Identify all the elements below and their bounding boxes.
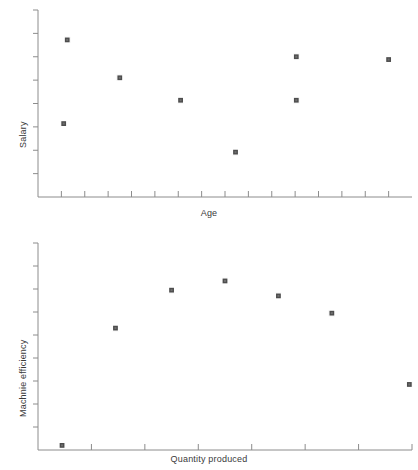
chart-panel-efficiency-quantity: Quantity produced Machnie efficiency [0, 232, 418, 470]
data-point [233, 149, 239, 155]
data-point [169, 287, 175, 293]
data-point [222, 278, 228, 284]
data-point [293, 54, 299, 60]
x-axis-label-age: Age [0, 208, 418, 218]
x-axis-label-quantity-produced: Quantity produced [0, 454, 418, 464]
scatter-plot-figure: Age Salary Quantity produced Machnie eff… [0, 0, 418, 470]
chart-panel-salary-age: Age Salary [0, 0, 418, 228]
salary-age-plot [0, 0, 418, 228]
y-axis-label-machnie-efficiency: Machnie efficiency [18, 340, 28, 417]
efficiency-quantity-plot [0, 232, 418, 470]
data-point [64, 37, 70, 43]
data-point [112, 325, 118, 331]
data-point [61, 121, 67, 127]
data-point [178, 97, 184, 103]
data-point [293, 97, 299, 103]
data-point [406, 381, 412, 387]
data-point [59, 442, 65, 448]
data-point [275, 293, 281, 299]
data-point [117, 75, 123, 81]
data-point [329, 310, 335, 316]
data-point [386, 57, 392, 63]
y-axis-label-salary: Salary [18, 121, 28, 148]
